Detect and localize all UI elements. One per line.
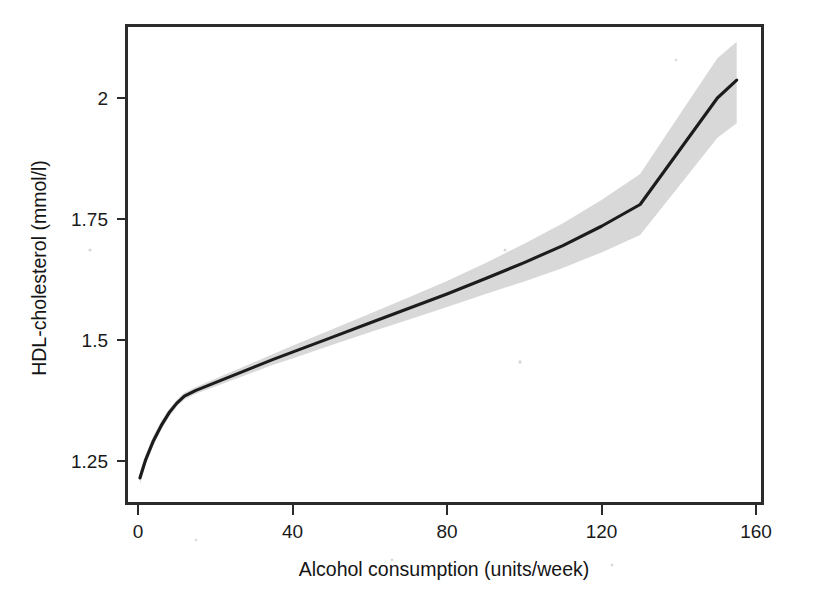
fitted-curve — [140, 80, 737, 478]
x-tick-label: 0 — [133, 521, 144, 542]
figure-canvas: 1.251.51.752 04080120160 Alcohol consump… — [0, 0, 813, 596]
y-axis-title: HDL-cholesterol (mmol/l) — [28, 160, 50, 376]
line-chart: 1.251.51.752 04080120160 Alcohol consump… — [0, 0, 813, 596]
x-tick-label: 80 — [436, 521, 457, 542]
y-axis-tick-labels: 1.251.51.752 — [71, 88, 108, 472]
x-axis-tick-labels: 04080120160 — [133, 521, 772, 542]
confidence-band — [140, 42, 737, 484]
x-tick-label: 120 — [586, 521, 618, 542]
y-tick-label: 2 — [97, 88, 108, 109]
plot-frame — [127, 26, 763, 504]
x-tick-label: 160 — [740, 521, 772, 542]
y-tick-label: 1.5 — [82, 330, 108, 351]
x-tick-label: 40 — [282, 521, 303, 542]
y-tick-label: 1.25 — [71, 451, 108, 472]
y-tick-label: 1.75 — [71, 209, 108, 230]
x-axis-ticks — [138, 504, 756, 515]
x-axis-title: Alcohol consumption (units/week) — [299, 558, 589, 580]
